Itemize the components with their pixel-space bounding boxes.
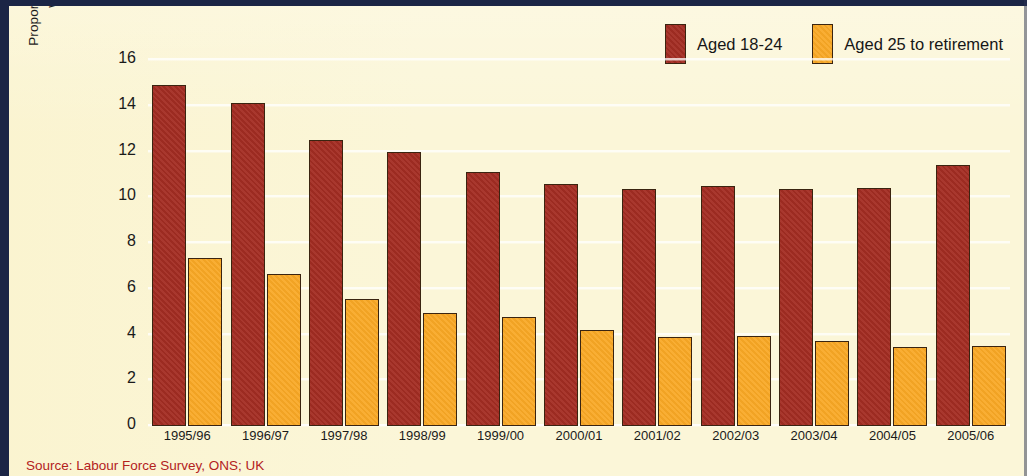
y-axis-tick-label: 8 (127, 232, 136, 250)
x-axis-tick-label: 2005/06 (932, 428, 1010, 443)
bar-series-1[interactable] (779, 189, 813, 426)
bar-group (932, 36, 1010, 426)
y-axis-title-line-1: Proportion of the economically active po… (25, 6, 43, 46)
bar-group (618, 36, 696, 426)
bar-series-2[interactable] (658, 337, 692, 426)
bar-group (775, 36, 853, 426)
bar-series-2[interactable] (188, 258, 222, 426)
bar-groups (148, 36, 1010, 426)
x-axis-tick-label: 2003/04 (775, 428, 853, 443)
bar-series-2[interactable] (972, 346, 1006, 426)
x-axis-tick-label: 1999/00 (461, 428, 539, 443)
x-axis-tick-label: 1996/97 (226, 428, 304, 443)
bar-series-2[interactable] (737, 336, 771, 426)
bar-series-1[interactable] (309, 140, 343, 426)
x-axis-tick-label: 2000/01 (540, 428, 618, 443)
x-axis-tick-label: 1995/96 (148, 428, 226, 443)
bar-series-2[interactable] (345, 299, 379, 426)
bar-series-2[interactable] (502, 317, 536, 426)
plot-area: 1614121086420 (148, 36, 1010, 426)
bar-series-1[interactable] (544, 184, 578, 426)
y-axis-title-line-2: who are ILO unemployed (per cent) (43, 6, 61, 46)
bar-series-2[interactable] (423, 313, 457, 426)
chart-canvas: Proportion of the economically active po… (9, 6, 1027, 476)
bar-series-1[interactable] (466, 172, 500, 426)
x-axis-tick-label: 1997/98 (305, 428, 383, 443)
bar-series-2[interactable] (267, 274, 301, 426)
y-axis-tick-label: 16 (118, 49, 136, 67)
bar-group (853, 36, 931, 426)
bar-group (540, 36, 618, 426)
figure-container: Proportion of the economically active po… (0, 0, 1027, 476)
frame-top-edge (0, 0, 1027, 6)
y-axis-tick-label: 2 (127, 369, 136, 387)
y-axis-tick-label: 6 (127, 278, 136, 296)
x-axis-tick-label: 1998/99 (383, 428, 461, 443)
bar-group (226, 36, 304, 426)
y-axis-tick-label: 0 (127, 415, 136, 433)
y-axis-tick-label: 4 (127, 324, 136, 342)
source-note: Source: Labour Force Survey, ONS; UK (26, 458, 264, 473)
bar-series-1[interactable] (231, 103, 265, 426)
bar-group (383, 36, 461, 426)
x-axis-tick-label: 2002/03 (697, 428, 775, 443)
bar-group (148, 36, 226, 426)
x-axis-tick-label: 2001/02 (618, 428, 696, 443)
bar-series-2[interactable] (815, 341, 849, 426)
x-axis-labels: 1995/961996/971997/981998/991999/002000/… (148, 428, 1010, 443)
bar-series-2[interactable] (893, 347, 927, 426)
bar-group (461, 36, 539, 426)
bar-series-1[interactable] (857, 188, 891, 426)
y-axis-title: Proportion of the economically active po… (21, 6, 65, 90)
bar-group (305, 36, 383, 426)
bar-series-1[interactable] (387, 152, 421, 426)
bar-series-1[interactable] (701, 186, 735, 426)
y-axis-tick-label: 14 (118, 95, 136, 113)
bar-series-1[interactable] (152, 85, 186, 426)
bar-series-2[interactable] (580, 330, 614, 426)
x-axis-tick-label: 2004/05 (853, 428, 931, 443)
bar-group (697, 36, 775, 426)
frame-left-edge (0, 0, 9, 476)
bar-series-1[interactable] (936, 165, 970, 426)
bar-series-1[interactable] (622, 189, 656, 426)
y-axis-tick-label: 12 (118, 141, 136, 159)
y-axis-tick-label: 10 (118, 186, 136, 204)
